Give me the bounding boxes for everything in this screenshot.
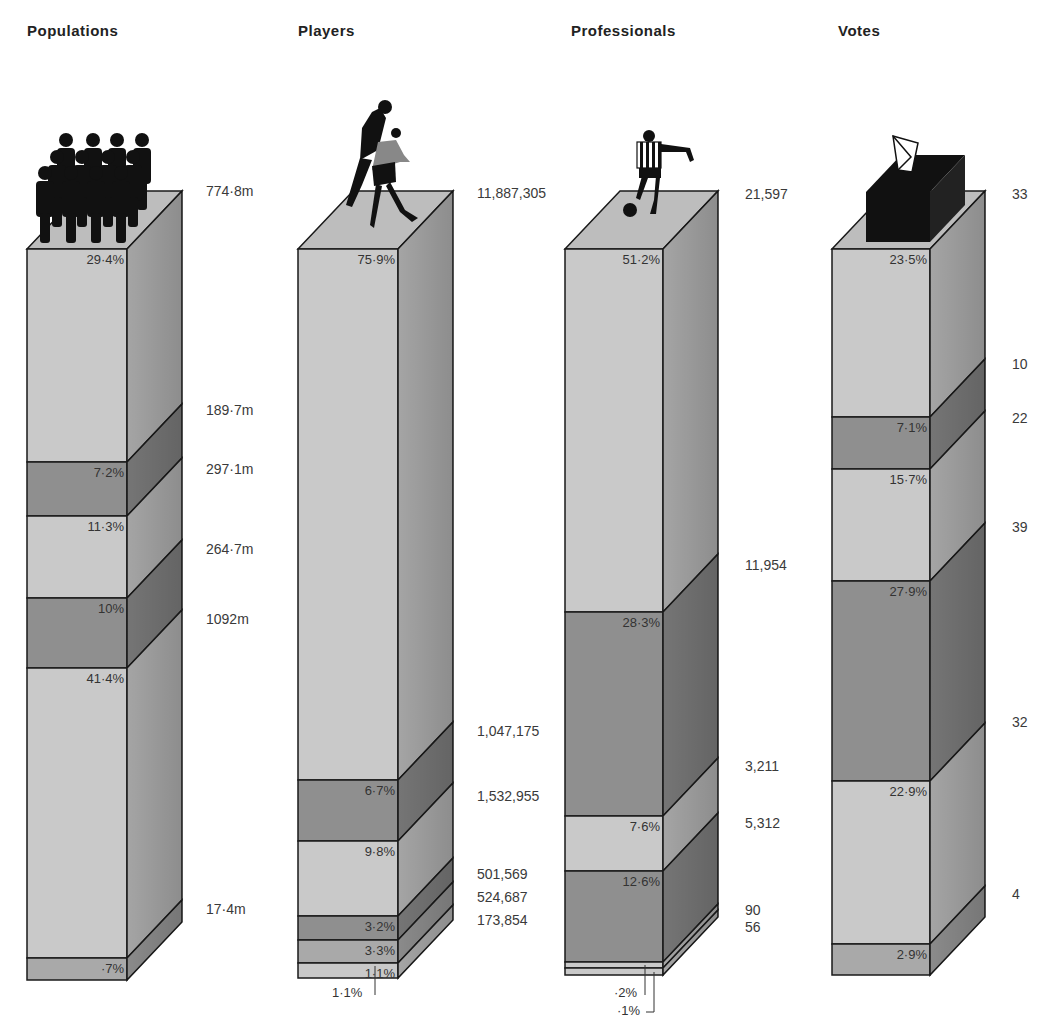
segment-percent-label: 11·3% [87, 519, 124, 534]
small-segment-callout: ·2% [614, 985, 638, 1000]
segment-percent-label: 6·7% [365, 783, 396, 798]
bar-players: 75·9%6·7%9·8%3·2%3·3%1·1% [298, 191, 453, 981]
side-value-label: 774·8m [206, 183, 253, 199]
side-value-label: 1,047,175 [477, 723, 539, 739]
bar-segment [298, 249, 398, 780]
side-value-label: 1,532,955 [477, 788, 539, 804]
side-value-label: 501,569 [477, 866, 528, 882]
side-value-label: 297·1m [206, 461, 253, 477]
bar-segment [565, 612, 663, 816]
segment-percent-label: 7·2% [94, 465, 125, 480]
side-value-label: 11,887,305 [477, 185, 546, 201]
segment-percent-label: 3·3% [365, 943, 396, 958]
bar-segment [832, 781, 930, 944]
side-value-label: 17·4m [206, 901, 246, 917]
small-segment-callout: 1·1% [332, 985, 363, 1000]
segment-percent-label: 51·2% [622, 252, 660, 267]
segment-percent-label: 28·3% [622, 615, 660, 630]
segment-percent-label: 10% [98, 601, 124, 616]
bar-segment [565, 968, 663, 975]
segment-percent-label: 22·9% [889, 784, 927, 799]
bar-populations: 29·4%7·2%11·3%10%41·4%·7% [27, 191, 182, 980]
side-value-label: 4 [1012, 886, 1020, 902]
segment-percent-label: 1·1% [365, 966, 396, 981]
side-value-label: 5,312 [745, 815, 780, 831]
side-value-label: 56 [745, 919, 761, 935]
side-value-label: 21,597 [745, 186, 788, 202]
segment-percent-label: 15·7% [889, 472, 927, 487]
bar-segment [565, 249, 663, 612]
bar-segment [832, 581, 930, 781]
small-segment-callout: ·1% [617, 1003, 641, 1018]
bar-professionals: 51·2%28·3%7·6%12·6% [565, 191, 718, 975]
side-value-label: 10 [1012, 356, 1028, 372]
bar-votes: 23·5%7·1%15·7%27·9%22·9%2·9% [832, 191, 985, 975]
side-value-label: 189·7m [206, 402, 253, 418]
side-value-label: 32 [1012, 714, 1028, 730]
side-value-label: 22 [1012, 410, 1028, 426]
segment-percent-label: 27·9% [889, 584, 927, 599]
segment-percent-label: 2·9% [897, 947, 928, 962]
segment-percent-label: 75·9% [357, 252, 395, 267]
segment-percent-label: 3·2% [365, 919, 396, 934]
side-value-label: 90 [745, 902, 761, 918]
segment-percent-label: ·7% [101, 961, 125, 976]
side-value-label: 33 [1012, 186, 1028, 202]
bar-segment [565, 962, 663, 968]
side-value-label: 39 [1012, 519, 1028, 535]
side-value-label: 3,211 [745, 758, 779, 774]
bar-segment [27, 249, 127, 462]
segment-percent-label: 9·8% [365, 844, 396, 859]
side-value-label: 1092m [206, 611, 249, 627]
segment-percent-label: 7·1% [897, 420, 928, 435]
segment-percent-label: 29·4% [86, 252, 124, 267]
bar-segment [832, 249, 930, 417]
side-value-label: 11,954 [745, 557, 787, 573]
segment-percent-label: 23·5% [889, 252, 927, 267]
segment-percent-label: 41·4% [86, 671, 124, 686]
side-value-label: 524,687 [477, 889, 528, 905]
bar-segment [27, 668, 127, 958]
side-value-label: 173,854 [477, 912, 528, 928]
segment-percent-label: 12·6% [622, 874, 660, 889]
side-value-label: 264·7m [206, 541, 253, 557]
segment-percent-label: 7·6% [630, 819, 661, 834]
